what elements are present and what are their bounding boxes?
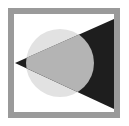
logo-icon [0,0,129,126]
